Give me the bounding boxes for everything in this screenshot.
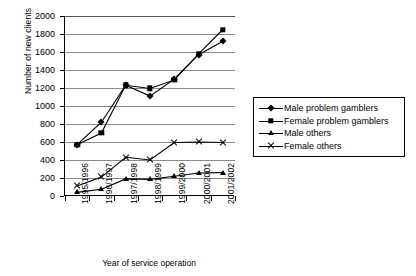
x-axis-tick-label: 2001/2002 [226,163,236,204]
legend-item[interactable]: Female problem gamblers [258,115,399,128]
legend-key [258,102,284,114]
x-axis-title: Year of service operation [64,258,234,268]
legend-label: Male problem gamblers [284,102,378,114]
legend-item[interactable]: Male others [258,127,399,140]
x-axis-tick-label: 1999/2000 [177,163,187,204]
diamond-marker [267,105,274,112]
legend-key [258,140,284,152]
legend-item[interactable]: Female others [258,140,399,153]
line-chart: Number of new clients 020040060080010001… [0,0,416,276]
legend-label: Female others [284,140,342,152]
legend-item[interactable]: Male problem gamblers [258,102,399,115]
x-axis-tick-label: 2000/2001 [202,163,212,204]
x-axis-tick-label: 1995/1996 [80,163,90,204]
x-axis-tick-label: 1998/1999 [153,163,163,204]
legend-label: Female problem gamblers [284,115,389,127]
x-axis-tick-label: 1997/1998 [129,163,139,204]
cross-marker [267,142,275,150]
square-marker [268,118,273,123]
legend-label: Male others [284,127,331,139]
chart-legend: Male problem gamblersFemale problem gamb… [253,97,405,157]
x-axis-tick-label: 1996/1997 [104,163,114,204]
triangle-marker [268,130,274,135]
legend-key [258,115,284,127]
legend-key [258,127,284,139]
